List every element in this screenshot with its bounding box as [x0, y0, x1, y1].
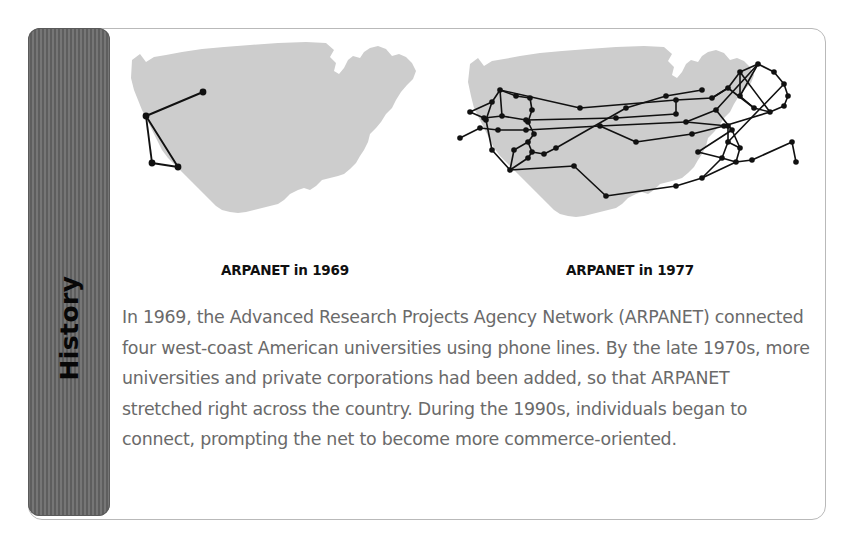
network-node [149, 160, 156, 167]
sidebar-tab-label: History [55, 276, 84, 381]
network-node [175, 164, 182, 171]
body-paragraph: In 1969, the Advanced Research Projects … [122, 302, 812, 455]
usa-map-1977-svg [440, 30, 820, 242]
card-content: ARPANET in 1969 [110, 30, 824, 516]
network-node [200, 89, 207, 96]
figures-row: ARPANET in 1969 [110, 30, 824, 292]
figure-arpanet-1969: ARPANET in 1969 [120, 30, 450, 292]
map-usa-1969 [120, 30, 450, 242]
figure-caption-1977: ARPANET in 1977 [440, 262, 820, 278]
usa-map-1969-svg [120, 30, 450, 242]
figure-caption-1969: ARPANET in 1969 [120, 262, 450, 278]
sidebar-tab-history[interactable]: History [28, 28, 110, 516]
map-usa-1977 [440, 30, 820, 242]
network-node [143, 113, 150, 120]
figure-arpanet-1977: ARPANET in 1977 [440, 30, 820, 292]
usa-outline-shape [131, 42, 416, 213]
